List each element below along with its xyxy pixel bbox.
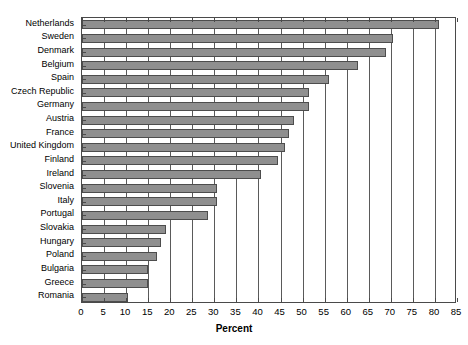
x-tick-top — [325, 18, 326, 22]
x-tick-top — [104, 18, 105, 22]
y-tick — [82, 297, 86, 298]
y-tick — [82, 202, 86, 203]
bar — [82, 20, 439, 29]
x-tick — [347, 298, 348, 302]
y-tick — [82, 134, 86, 135]
x-tick-top — [347, 18, 348, 22]
y-tick — [82, 147, 86, 148]
category-label: Netherlands — [25, 18, 74, 29]
category-label: Romania — [38, 290, 74, 301]
bar — [82, 75, 329, 84]
x-tick — [325, 298, 326, 302]
category-label: United Kingdom — [10, 140, 74, 151]
x-tick — [104, 298, 105, 302]
category-label: France — [46, 127, 74, 138]
category-label: Greece — [44, 277, 74, 288]
x-tick-label: 85 — [441, 306, 468, 317]
category-label: Slovenia — [39, 181, 74, 192]
category-label: Germany — [37, 99, 74, 110]
x-tick-top — [391, 18, 392, 22]
category-label: Italy — [57, 195, 74, 206]
x-tick-top — [281, 18, 282, 22]
y-tick — [82, 175, 86, 176]
y-tick — [82, 79, 86, 80]
bar — [82, 34, 393, 43]
x-tick — [369, 298, 370, 302]
category-label: Finland — [44, 154, 74, 165]
category-label: Austria — [46, 113, 74, 124]
bar — [82, 143, 285, 152]
y-tick — [82, 120, 86, 121]
bar — [82, 225, 166, 234]
y-tick — [82, 215, 86, 216]
x-tick — [126, 298, 127, 302]
bar — [82, 279, 148, 288]
x-tick — [214, 298, 215, 302]
x-tick-top — [435, 18, 436, 22]
y-tick — [82, 243, 86, 244]
bar — [82, 197, 217, 206]
bar-row — [82, 290, 455, 305]
y-tick — [82, 188, 86, 189]
y-tick — [82, 38, 86, 39]
y-tick — [82, 284, 86, 285]
x-tick — [457, 298, 458, 302]
y-tick — [82, 52, 86, 53]
bar-chart: NetherlandsSwedenDenmarkBelgiumSpainCzec… — [0, 0, 468, 345]
bar — [82, 170, 261, 179]
y-tick — [82, 66, 86, 67]
category-axis-labels: NetherlandsSwedenDenmarkBelgiumSpainCzec… — [0, 17, 78, 303]
bar — [82, 211, 208, 220]
bar — [82, 265, 148, 274]
category-label: Sweden — [41, 31, 74, 42]
category-label: Bulgaria — [41, 263, 74, 274]
x-tick-top — [369, 18, 370, 22]
category-label: Denmark — [37, 45, 74, 56]
bar — [82, 88, 309, 97]
x-tick-top — [82, 18, 83, 22]
y-tick — [82, 107, 86, 108]
x-tick-top — [214, 18, 215, 22]
y-tick — [82, 256, 86, 257]
x-tick — [413, 298, 414, 302]
category-label: Slovakia — [40, 222, 74, 233]
bar — [82, 102, 309, 111]
x-tick-top — [170, 18, 171, 22]
bar — [82, 61, 358, 70]
x-tick — [258, 298, 259, 302]
x-tick-top — [258, 18, 259, 22]
x-tick — [148, 298, 149, 302]
x-tick-top — [236, 18, 237, 22]
x-tick-top — [148, 18, 149, 22]
bar — [82, 252, 157, 261]
category-label: Spain — [51, 72, 74, 83]
bar — [82, 184, 217, 193]
bar — [82, 293, 128, 302]
category-label: Ireland — [46, 168, 74, 179]
x-tick-top — [192, 18, 193, 22]
y-tick — [82, 93, 86, 94]
y-tick — [82, 270, 86, 271]
x-tick — [435, 298, 436, 302]
x-axis-title: Percent — [0, 323, 468, 334]
category-label: Belgium — [41, 59, 74, 70]
x-tick — [281, 298, 282, 302]
category-label: Portugal — [40, 208, 74, 219]
bar — [82, 48, 386, 57]
bar — [82, 156, 278, 165]
bar — [82, 116, 294, 125]
x-tick-top — [126, 18, 127, 22]
x-tick — [391, 298, 392, 302]
x-tick-top — [413, 18, 414, 22]
x-tick — [170, 298, 171, 302]
category-label: Czech Republic — [11, 86, 74, 97]
x-tick — [82, 298, 83, 302]
y-tick — [82, 25, 86, 26]
category-label: Poland — [46, 249, 74, 260]
x-tick — [303, 298, 304, 302]
x-tick — [192, 298, 193, 302]
y-tick — [82, 229, 86, 230]
y-tick — [82, 161, 86, 162]
bar — [82, 129, 289, 138]
category-label: Hungary — [40, 236, 74, 247]
